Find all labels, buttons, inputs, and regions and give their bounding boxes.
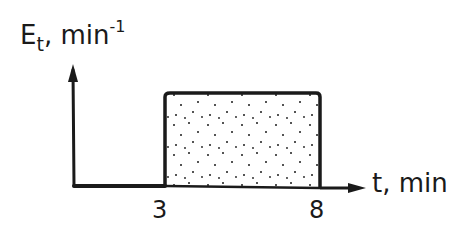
x-axis-arrowhead-icon: [348, 183, 366, 193]
y-label-superscript: -1: [109, 17, 125, 36]
y-label-subscript: t: [36, 33, 43, 55]
pulse-rectangle: [165, 93, 320, 188]
x-axis-label: t, min: [372, 168, 448, 198]
x-tick-3: 3: [152, 196, 167, 224]
y-axis: [68, 64, 78, 186]
y-label-unit: , min: [44, 20, 110, 50]
y-label-main: E: [20, 20, 36, 50]
y-axis-arrowhead-icon: [68, 64, 78, 82]
y-axis-label: Et, min-1: [20, 20, 125, 50]
x-tick-8: 8: [309, 196, 324, 224]
